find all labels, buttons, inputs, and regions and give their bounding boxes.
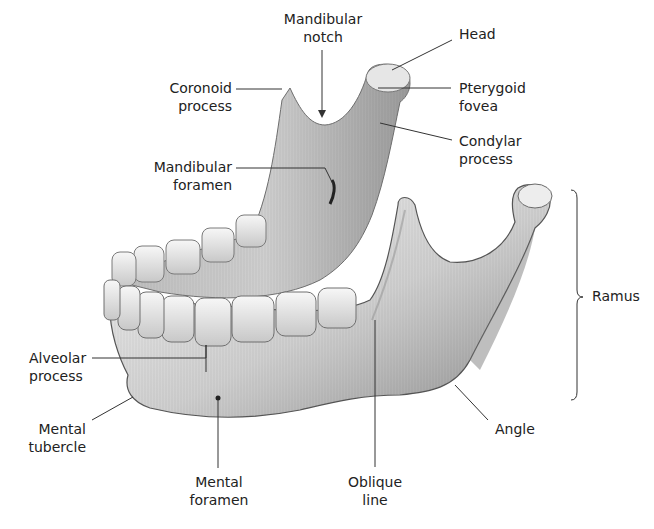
label-mental-tubercle: Mentaltubercle (10, 420, 86, 456)
arrow-head-icon (318, 110, 326, 118)
label-coronoid-process: Coronoidprocess (140, 79, 232, 115)
label-condylar-process: Condylarprocess (459, 132, 522, 168)
mandible-illustration (0, 0, 654, 529)
label-angle: Angle (495, 420, 535, 438)
label-mental-foramen: Mentalforamen (180, 473, 258, 509)
leader-head (392, 40, 452, 70)
label-oblique-line: Obliqueline (340, 473, 410, 509)
leader-angle (455, 385, 488, 420)
label-head: Head (459, 25, 496, 43)
label-mandibular-notch: Mandibularnotch (282, 10, 364, 46)
label-alveolar-process: Alveolarprocess (29, 349, 86, 385)
label-pterygoid-fovea: Pterygoidfovea (459, 79, 526, 115)
label-ramus: Ramus (592, 287, 640, 305)
leader-mental-tubercle (92, 397, 133, 420)
label-mandibular-foramen: Mandibularforamen (130, 158, 232, 194)
ramus-brace (571, 190, 583, 400)
mandible-diagram: Mandibularnotch Head Coronoidprocess Pte… (0, 0, 654, 529)
